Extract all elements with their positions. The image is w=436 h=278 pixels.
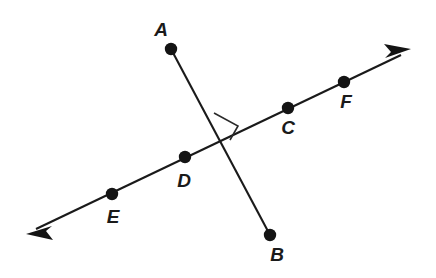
- point-dot-B: [264, 229, 276, 241]
- segment-AB: [171, 49, 270, 235]
- point-label-F: F: [340, 91, 353, 112]
- point-dot-F: [338, 76, 350, 88]
- point-dot-A: [165, 43, 177, 55]
- line-EF-group: [26, 44, 411, 240]
- point-label-D: D: [177, 170, 191, 191]
- point-dot-E: [106, 188, 118, 200]
- point-label-E: E: [107, 206, 121, 227]
- point-label-C: C: [281, 117, 295, 138]
- point-label-B: B: [270, 244, 284, 265]
- segment-AB-group: [171, 49, 270, 235]
- point-dot-D: [179, 151, 191, 163]
- geometry-diagram: A B C D E F: [0, 0, 436, 278]
- point-dot-C: [282, 102, 294, 114]
- point-label-A: A: [153, 19, 168, 40]
- geometry-canvas: A B C D E F: [0, 0, 436, 278]
